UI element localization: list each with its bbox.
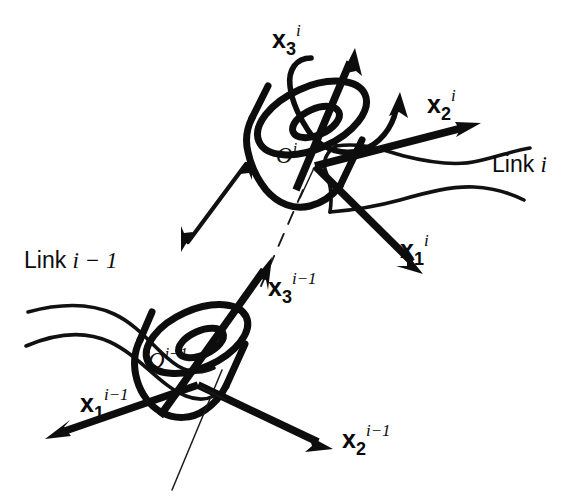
- label-link-im1-index: i − 1: [73, 248, 118, 273]
- label-x2-im1-base: x: [342, 425, 356, 453]
- label-origin-im1-sup: i−1: [165, 345, 188, 362]
- label-link-im1-prefix: Link: [24, 247, 73, 273]
- label-x3-i-base: x: [272, 25, 286, 53]
- label-x1-i-sup: i: [424, 231, 429, 250]
- label-link-i: Link i: [492, 151, 547, 177]
- label-link-i-prefix: Link: [492, 151, 541, 177]
- label-x3-im1-base: x: [268, 273, 282, 301]
- label-x2-i-sub: 2: [441, 104, 451, 124]
- figure-root: x3i x2i x1i x3i−1 x2i−1 x1i−1 Oi: [0, 0, 588, 500]
- label-x3-im1-sub: 3: [282, 287, 292, 307]
- svg-text:Link i: Link i: [492, 151, 547, 177]
- label-origin-i-base: O: [276, 143, 293, 168]
- label-x1-im1-base: x: [80, 389, 94, 417]
- label-x2-i-sup: i: [451, 86, 456, 105]
- label-x2-i-base: x: [427, 90, 441, 118]
- label-x3-i-sup: i: [296, 21, 301, 40]
- label-x3-i-sub: 3: [286, 39, 296, 59]
- label-x3-im1-sup: i−1: [292, 269, 317, 288]
- label-link-i-index: i: [541, 152, 547, 177]
- label-x1-im1-sup: i−1: [104, 385, 129, 404]
- label-link-im1: Link i − 1: [24, 247, 118, 273]
- label-x1-i-sub: 1: [414, 249, 424, 269]
- label-x2-im1-sub: 2: [356, 439, 366, 459]
- svg-text:Link i − 1: Link i − 1: [24, 247, 118, 273]
- label-origin-i-sup: i: [293, 140, 297, 157]
- label-x1-im1-sub: 1: [94, 403, 104, 423]
- label-x1-i-base: x: [400, 235, 414, 263]
- label-origin-im1-base: O: [148, 348, 165, 373]
- link-frames-diagram: x3i x2i x1i x3i−1 x2i−1 x1i−1 Oi: [0, 0, 588, 500]
- label-x2-im1-sup: i−1: [366, 421, 391, 440]
